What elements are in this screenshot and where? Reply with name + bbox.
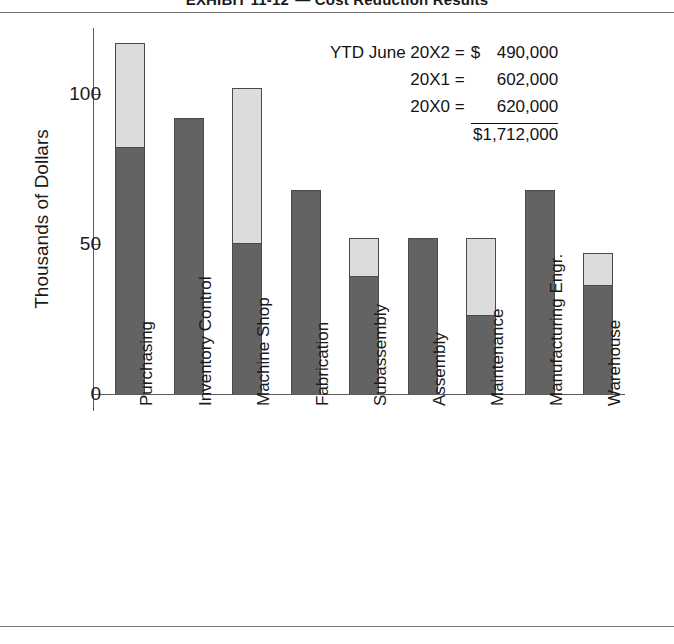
- chart-plot-area: Thousands of Dollars 050100 PurchasingIn…: [0, 12, 674, 626]
- ytd-summary-row-currency: [471, 96, 487, 123]
- ytd-summary-row: 20X0 =620,000: [330, 96, 558, 123]
- exhibit-title: EXHIBIT 11-12— Cost Reduction Results: [0, 0, 674, 8]
- ytd-summary-row-currency: [471, 69, 487, 96]
- ytd-summary-row-amount: 620,000: [487, 96, 558, 123]
- bar-segment-remaining[interactable]: [583, 253, 613, 286]
- exhibit-title-dash: —: [295, 0, 310, 8]
- bar-segment-remaining[interactable]: [115, 43, 145, 148]
- ytd-summary-annotation: YTD June 20X2 =$490,00020X1 =602,00020X0…: [330, 42, 558, 151]
- bar-segment-remaining[interactable]: [349, 238, 379, 277]
- x-axis-category-label: Fabrication: [313, 322, 333, 406]
- ytd-summary-row: 20X1 =602,000: [330, 69, 558, 96]
- x-axis-category-label: Warehouse: [605, 320, 625, 406]
- y-axis-title: Thousands of Dollars: [31, 59, 53, 379]
- x-axis-category-label: Subassembly: [371, 304, 391, 406]
- x-axis-category-label: Inventory Control: [196, 277, 216, 406]
- x-axis-category-label: Manufacturing Engr.: [547, 254, 567, 406]
- ytd-summary-total-amount: $1,712,000: [471, 123, 558, 150]
- ytd-summary-row-label: YTD June 20X2 =: [330, 42, 471, 69]
- ytd-summary-total-row: $1,712,000: [330, 123, 558, 150]
- x-axis-category-label: Purchasing: [137, 321, 157, 406]
- ytd-summary-row-label: 20X0 =: [330, 96, 471, 123]
- bar-segment-remaining[interactable]: [466, 238, 496, 316]
- ytd-summary-row-amount: 602,000: [487, 69, 558, 96]
- divider-bottom: [0, 626, 674, 627]
- ytd-summary-total-spacer: [330, 123, 471, 150]
- ytd-summary-row-amount: 490,000: [487, 42, 558, 69]
- ytd-summary-row: YTD June 20X2 =$490,000: [330, 42, 558, 69]
- ytd-summary-row-currency: $: [471, 42, 487, 69]
- bar-segment-remaining[interactable]: [232, 88, 262, 244]
- exhibit-title-text: Cost Reduction Results: [315, 0, 489, 8]
- x-axis-category-label: Maintenance: [488, 309, 508, 406]
- ytd-summary-table: YTD June 20X2 =$490,00020X1 =602,00020X0…: [330, 42, 558, 151]
- x-axis-category-label: Assembly: [430, 332, 450, 406]
- ytd-summary-row-label: 20X1 =: [330, 69, 471, 96]
- x-axis-category-label: Machine Shop: [254, 297, 274, 406]
- exhibit-title-label: EXHIBIT 11-12: [186, 0, 289, 8]
